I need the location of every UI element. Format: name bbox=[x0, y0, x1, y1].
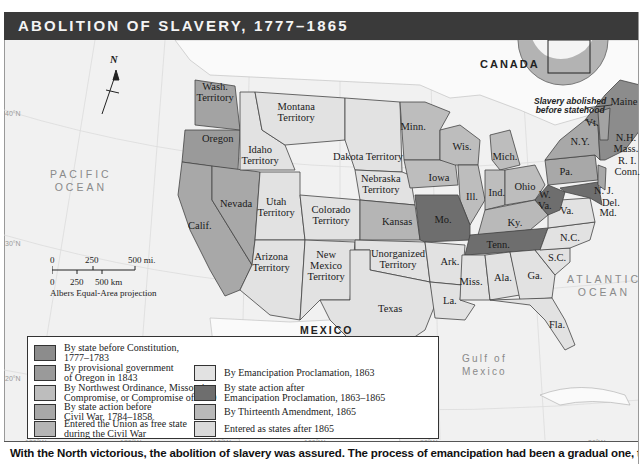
region-label: Texas bbox=[378, 303, 402, 314]
scale-mi-500: 500 mi. bbox=[128, 255, 156, 265]
region-label: Utah Territory bbox=[258, 196, 295, 218]
region-label: Ky. bbox=[508, 217, 523, 228]
legend-label: By provisional government of Oregon in 1… bbox=[64, 363, 173, 383]
scale-km-0: 0 bbox=[50, 277, 55, 287]
region-label: S.C. bbox=[548, 252, 566, 263]
legend-label: By Thirteenth Amendment, 1865 bbox=[224, 407, 356, 417]
label-canada: CANADA bbox=[480, 58, 540, 70]
label-gulf-of-mexico: Gulf of Mexico bbox=[462, 352, 507, 378]
region-label: Nebraska Territory bbox=[361, 173, 401, 195]
region-label: Unorganized Territory bbox=[371, 248, 425, 270]
region-label: N.C. bbox=[560, 232, 580, 243]
lat-40: 40°N bbox=[5, 110, 21, 117]
legend-swatch bbox=[34, 385, 56, 401]
region-label: Vt. bbox=[586, 117, 599, 128]
region-label: Va. bbox=[560, 205, 574, 216]
region-label: Maine bbox=[611, 96, 638, 107]
legend-swatch bbox=[34, 345, 56, 361]
legend-item-after-1865: Entered as states after 1865 bbox=[194, 419, 334, 439]
region-label: Ark. bbox=[441, 256, 460, 267]
legend-swatch bbox=[34, 365, 56, 381]
region-label: La. bbox=[443, 295, 457, 306]
legend-swatch bbox=[34, 404, 56, 420]
region-label: Ind. bbox=[489, 187, 506, 198]
region-label: Arizona Territory bbox=[253, 251, 290, 273]
legend: By state before Constitution, 1777–1783 … bbox=[27, 336, 439, 439]
region-label: Minn. bbox=[401, 121, 426, 132]
region-label: Fla. bbox=[549, 319, 565, 330]
region-label: Dakota Territory bbox=[333, 151, 403, 162]
legend-swatch bbox=[194, 404, 216, 420]
scale-mi-0: 0 bbox=[50, 255, 55, 265]
north-label: N bbox=[110, 54, 118, 65]
legend-label: Entered the Union as free state during t… bbox=[64, 419, 187, 439]
region-label: Colorado Territory bbox=[312, 204, 351, 226]
region-label: Nevada bbox=[220, 198, 252, 209]
region-label: Iowa bbox=[429, 172, 450, 183]
region-label: Ill. bbox=[466, 191, 478, 202]
region-label: Ga. bbox=[528, 270, 543, 281]
region-label: Calif. bbox=[188, 220, 212, 231]
region-label: Kansas bbox=[382, 216, 412, 227]
scale-line bbox=[52, 266, 137, 276]
region-label: Idaho Territory bbox=[242, 144, 279, 166]
lat-20: 20°N bbox=[5, 375, 21, 382]
region-label: New Mexico Territory bbox=[308, 249, 345, 282]
legend-swatch bbox=[194, 385, 216, 401]
region-label: Ala. bbox=[494, 272, 512, 283]
region-label: N.H. Mass. bbox=[614, 132, 639, 154]
note-slavery-abolished-before-statehood: Slavery abolished before statehood bbox=[534, 97, 606, 115]
region-label: Wis. bbox=[453, 141, 472, 152]
region-label: Wash. Territory bbox=[197, 81, 234, 103]
region-label: Ohio bbox=[515, 181, 536, 192]
label-atlantic-ocean: ATLANTIC OCEAN bbox=[567, 273, 641, 299]
north-arrow bbox=[102, 70, 119, 114]
region-label: Miss. bbox=[460, 276, 483, 287]
scale-mi-250: 250 bbox=[85, 255, 99, 265]
legend-item-free-state-civil-war: Entered the Union as free state during t… bbox=[34, 419, 187, 439]
scale-km-500: 500 km bbox=[95, 277, 122, 287]
legend-swatch bbox=[194, 421, 216, 437]
legend-label: By state before Constitution, 1777–1783 bbox=[64, 343, 179, 363]
region-label: W. Va. bbox=[538, 189, 552, 211]
region-label: Tenn. bbox=[487, 239, 510, 250]
region-label: Mo. bbox=[435, 214, 452, 225]
region-label: R. I. Conn. bbox=[615, 155, 640, 177]
projection-label: Albers Equal-Area projection bbox=[50, 288, 156, 298]
lat-30: 30°N bbox=[5, 240, 21, 247]
legend-swatch bbox=[34, 421, 56, 437]
title-bar: ABOLITION OF SLAVERY, 1777–1865 bbox=[4, 12, 638, 40]
map-title: ABOLITION OF SLAVERY, 1777–1865 bbox=[18, 17, 349, 34]
region-label: N. J. bbox=[594, 185, 614, 196]
region-label: Mich. bbox=[493, 151, 518, 162]
scale-km-250: 250 bbox=[70, 277, 84, 287]
region-label: Oregon bbox=[202, 133, 234, 144]
region-label: Montana Territory bbox=[278, 101, 315, 123]
label-pacific-ocean: PACIFIC OCEAN bbox=[50, 168, 112, 194]
label-mexico: MEXICO bbox=[300, 324, 353, 336]
legend-label: Entered as states after 1865 bbox=[224, 424, 334, 434]
legend-label: By Emancipation Proclamation, 1863 bbox=[224, 368, 375, 378]
map-caption: With the North victorious, the abolition… bbox=[4, 441, 638, 464]
scale-bar: 0 250 500 mi. 0 250 500 km Albers Equal-… bbox=[50, 255, 200, 305]
region-label: Pa. bbox=[560, 166, 573, 177]
legend-swatch bbox=[194, 365, 216, 381]
region-label: N.Y. bbox=[571, 136, 590, 147]
region-label: Md. bbox=[600, 207, 617, 218]
